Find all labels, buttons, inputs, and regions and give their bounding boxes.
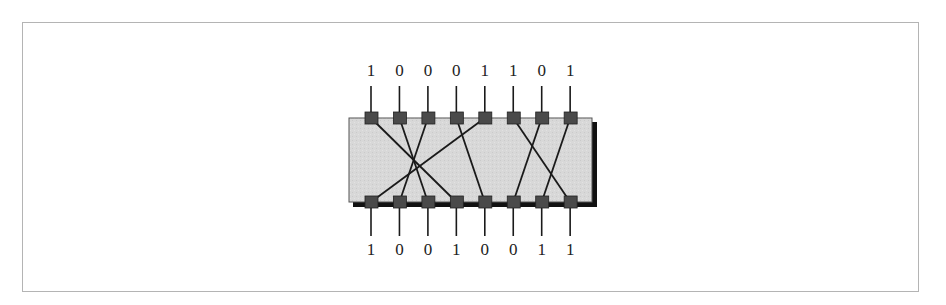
input-pin-2: [393, 112, 406, 124]
output-pin-2: [393, 196, 406, 208]
output-bit-3: 0: [418, 240, 438, 260]
input-pin-5: [479, 112, 492, 124]
output-pin-3: [422, 196, 435, 208]
input-pin-1: [365, 112, 378, 124]
input-bit-4: 0: [446, 61, 466, 81]
output-pin-1: [365, 196, 378, 208]
output-pin-6: [507, 196, 520, 208]
output-bit-1: 1: [361, 240, 381, 260]
output-bit-5: 0: [475, 240, 495, 260]
permutation-diagram: [0, 0, 946, 305]
input-bit-1: 1: [361, 61, 381, 81]
input-bit-3: 0: [418, 61, 438, 81]
input-bit-8: 1: [560, 61, 580, 81]
output-bit-2: 0: [389, 240, 409, 260]
output-bit-6: 0: [503, 240, 523, 260]
output-pin-5: [479, 196, 492, 208]
input-pin-6: [507, 112, 520, 124]
output-bit-7: 1: [532, 240, 552, 260]
output-bit-4: 1: [446, 240, 466, 260]
output-pin-7: [536, 196, 549, 208]
input-bit-5: 1: [475, 61, 495, 81]
input-pin-7: [536, 112, 549, 124]
input-pin-3: [422, 112, 435, 124]
output-pin-8: [564, 196, 577, 208]
input-bit-6: 1: [503, 61, 523, 81]
output-bit-8: 1: [560, 240, 580, 260]
input-bit-7: 0: [532, 61, 552, 81]
output-pin-4: [450, 196, 463, 208]
input-pin-4: [450, 112, 463, 124]
input-pin-8: [564, 112, 577, 124]
input-bit-2: 0: [389, 61, 409, 81]
